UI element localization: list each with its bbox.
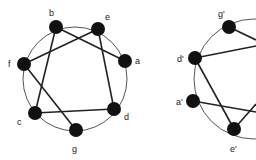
- graph-diagram: abefcdgg'd'a'e': [0, 0, 256, 160]
- edge: [24, 29, 98, 64]
- edge: [24, 64, 76, 130]
- node-label: b: [49, 8, 54, 18]
- node-label: g: [72, 144, 77, 154]
- node: [227, 122, 241, 136]
- edge: [195, 46, 256, 58]
- node-label: e': [230, 144, 237, 154]
- node-label: c: [17, 117, 22, 127]
- node: [17, 57, 31, 71]
- node: [49, 20, 63, 34]
- node: [69, 123, 83, 137]
- node: [28, 106, 42, 120]
- node: [118, 54, 132, 68]
- node-label: a: [135, 56, 140, 66]
- cycle-circle: [194, 19, 256, 139]
- edge: [98, 29, 114, 109]
- node-label: d': [177, 54, 184, 64]
- node: [222, 20, 236, 34]
- node-label: g': [218, 9, 225, 19]
- node-label: e: [105, 12, 110, 22]
- node-label: a': [176, 97, 183, 107]
- node-label: d: [124, 112, 129, 122]
- edge: [35, 109, 114, 113]
- node: [188, 51, 202, 65]
- node-label: f: [8, 59, 11, 69]
- node: [107, 102, 121, 116]
- node: [91, 22, 105, 36]
- edge: [195, 58, 234, 129]
- node: [186, 94, 200, 108]
